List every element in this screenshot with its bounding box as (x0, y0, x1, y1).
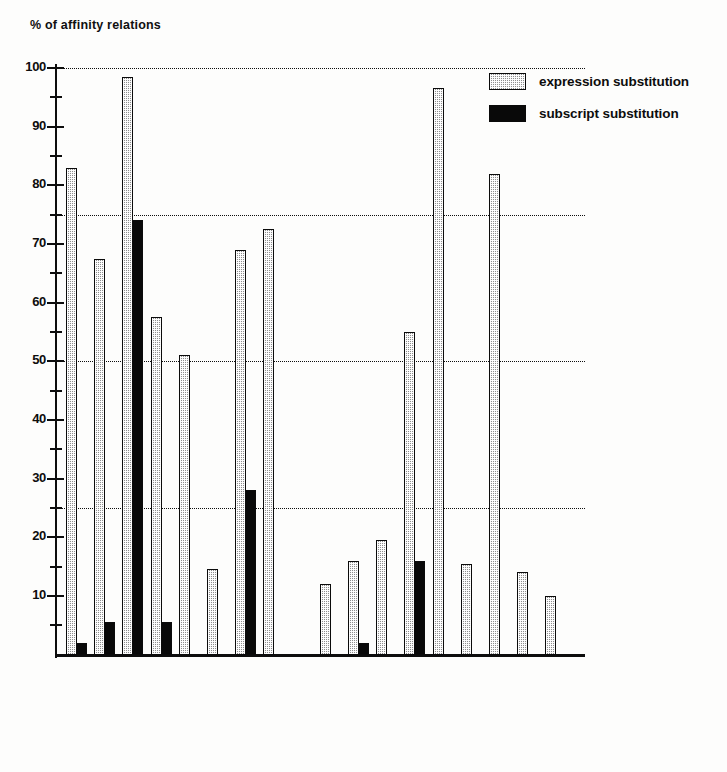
y-tick-minor-35 (50, 448, 62, 450)
y-tick-label-10: 10 (4, 587, 46, 602)
y-tick-major-30 (47, 478, 64, 480)
bar-expression-trfd (376, 540, 387, 654)
y-tick-label-90: 90 (4, 118, 46, 133)
legend-item-expression[interactable]: expression substitution (489, 72, 689, 91)
y-tick-major-80 (47, 184, 64, 186)
bar-expression-wave5 (545, 596, 556, 655)
y-tick-major-40 (47, 419, 64, 421)
bar-expression-arc2d (94, 259, 105, 655)
legend-item-subscript[interactable]: subscript substitution (489, 104, 689, 123)
y-tick-major-60 (47, 302, 64, 304)
y-tick-minor-45 (50, 390, 62, 392)
legend-label-subscript: subscript substitution (539, 106, 679, 121)
bar-expression-mdljdp2 (489, 174, 500, 655)
y-tick-minor-55 (50, 331, 62, 333)
bar-expression-fpppp (433, 88, 444, 654)
y-tick-minor-75 (50, 214, 62, 216)
y-tick-label-40: 40 (4, 411, 46, 426)
bar-subscript-mg3d (245, 490, 256, 654)
y-tick-label-100: 100 (4, 59, 46, 74)
gridline-75 (56, 215, 585, 216)
y-tick-label-70: 70 (4, 235, 46, 250)
y-tick-major-50 (47, 360, 64, 362)
chart-figure: % of affinity relations 1020304050607080… (0, 0, 727, 772)
y-tick-major-20 (47, 536, 64, 538)
bar-subscript-track (358, 643, 369, 655)
legend-label-expression: expression substitution (539, 74, 689, 89)
bar-expression-track (348, 561, 359, 655)
bar-expression-spec77 (320, 584, 331, 654)
y-tick-minor-5 (50, 624, 62, 626)
gridline-100 (56, 68, 585, 69)
y-tick-minor-95 (50, 96, 62, 98)
y-tick-label-60: 60 (4, 294, 46, 309)
chart-legend: expression substitutionsubscript substit… (489, 72, 689, 136)
bar-subscript-doduc (414, 561, 425, 655)
bar-expression-hydro2d (461, 564, 472, 655)
bar-expression-ocean (263, 229, 274, 654)
bar-expression-adm (66, 168, 77, 655)
y-tick-label-30: 30 (4, 470, 46, 485)
bar-subscript-bdna (132, 220, 143, 654)
bar-expression-dyfesm (151, 317, 162, 654)
y-tick-label-20: 20 (4, 528, 46, 543)
bar-expression-mdg (207, 569, 218, 654)
y-tick-major-70 (47, 243, 64, 245)
bar-subscript-dyfesm (161, 622, 172, 654)
y-tick-major-100 (47, 67, 64, 69)
y-tick-minor-15 (50, 566, 62, 568)
bar-expression-flo52 (179, 355, 190, 654)
bar-expression-su2cor (517, 572, 528, 654)
legend-swatch-subscript (489, 105, 526, 122)
y-tick-minor-25 (50, 507, 62, 509)
y-tick-minor-85 (50, 155, 62, 157)
y-tick-major-90 (47, 126, 64, 128)
y-tick-label-80: 80 (4, 176, 46, 191)
bar-subscript-adm (76, 643, 87, 655)
y-tick-label-50: 50 (4, 352, 46, 367)
legend-swatch-expression (489, 73, 526, 90)
y-tick-major-10 (47, 595, 64, 597)
bar-subscript-arc2d (104, 622, 115, 654)
y-tick-minor-65 (50, 272, 62, 274)
